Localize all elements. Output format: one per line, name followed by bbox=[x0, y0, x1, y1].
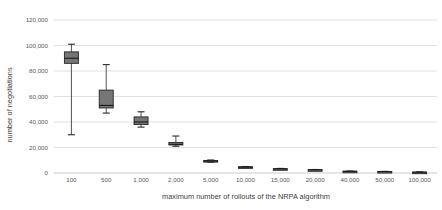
y-axis-tick-label: 40,000 bbox=[29, 118, 48, 125]
x-axis-tick-label: 15,000 bbox=[271, 176, 290, 183]
box-plot-item bbox=[413, 172, 427, 174]
x-axis-tick-label: 1,000 bbox=[133, 176, 149, 183]
box-plot-item bbox=[343, 171, 357, 173]
y-axis-tick-label: 20,000 bbox=[29, 144, 48, 151]
box-plot-item bbox=[378, 171, 392, 173]
box-plot-chart: 020,00040,00060,00080,000100,000120,000 … bbox=[0, 0, 442, 210]
x-axis-tick-label: 10,000 bbox=[236, 176, 255, 183]
x-axis-tick-label: 500 bbox=[101, 176, 112, 183]
box-plot-item bbox=[239, 166, 253, 168]
x-axis-tick-label: 20,000 bbox=[306, 176, 325, 183]
box-plot-item bbox=[273, 168, 287, 170]
x-axis-tick-label: 2,000 bbox=[168, 176, 184, 183]
x-axis-title: maximum number of rollouts of the NRPA a… bbox=[162, 192, 330, 201]
box-plot-item bbox=[308, 169, 322, 171]
box-rect bbox=[64, 52, 78, 63]
y-axis-tick-label: 60,000 bbox=[29, 93, 48, 100]
y-axis-title: number of negotiations bbox=[5, 67, 14, 142]
x-axis-tick-label: 50,000 bbox=[375, 176, 394, 183]
chart-canvas: 020,00040,00060,00080,000100,000120,000 … bbox=[0, 0, 442, 210]
y-axis-tick-label: 80,000 bbox=[29, 67, 48, 74]
box-plot-item bbox=[204, 160, 218, 162]
y-axis-tick-label: 120,000 bbox=[26, 16, 49, 23]
y-axis-tick-label: 100,000 bbox=[26, 42, 49, 49]
y-axis-tick-label: 0 bbox=[45, 169, 49, 176]
x-axis-tick-label: 100,000 bbox=[408, 176, 431, 183]
x-axis-tick-label: 100 bbox=[66, 176, 77, 183]
box-rect bbox=[134, 117, 148, 125]
x-axis-tick-label: 5,000 bbox=[203, 176, 219, 183]
x-axis-tick-label: 40,000 bbox=[340, 176, 359, 183]
